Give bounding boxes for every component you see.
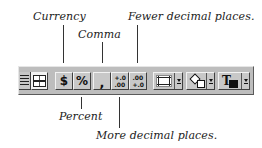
- callout-fewer-decimal-line: [137, 25, 138, 63]
- dropdown-arrow-underline: [244, 83, 248, 84]
- justify-button[interactable]: [19, 72, 31, 90]
- decrease-decimal-icon: .00 +.0: [133, 74, 144, 88]
- callout-currency-label: Currency: [33, 10, 86, 23]
- chevron-down-icon[interactable]: [177, 79, 181, 82]
- chevron-down-icon[interactable]: [244, 79, 248, 82]
- callout-comma-line: [102, 42, 103, 63]
- formatting-toolbar: $ % , +.0 .00 .00 +.0: [18, 66, 254, 95]
- decrease-decimal-button[interactable]: .00 +.0: [129, 72, 147, 90]
- percent-icon: %: [76, 75, 88, 87]
- dropdown-arrow-underline: [177, 83, 181, 84]
- fill-color-dropdown[interactable]: [186, 72, 215, 90]
- dropdown-arrow-underline: [209, 83, 213, 84]
- dollar-icon: $: [60, 75, 68, 87]
- increase-decimal-icon: +.0 .00: [115, 74, 126, 88]
- dropdown-divider: [206, 73, 207, 89]
- increase-decimal-button[interactable]: +.0 .00: [111, 72, 129, 90]
- font-color-icon: T: [222, 75, 239, 88]
- percent-style-button[interactable]: %: [73, 72, 91, 90]
- callout-percent-label: Percent: [59, 110, 103, 123]
- callout-more-decimal-line: [119, 97, 120, 128]
- borders-dropdown[interactable]: [153, 72, 183, 90]
- center-across-columns-button[interactable]: [31, 72, 48, 90]
- justify-lines-icon: [20, 75, 29, 86]
- chevron-down-icon[interactable]: [209, 79, 213, 82]
- paint-bucket-icon: [190, 75, 205, 88]
- callout-percent-line: [81, 97, 82, 109]
- callout-currency-line: [63, 25, 64, 63]
- dropdown-divider: [174, 73, 175, 89]
- callout-fewer-decimal-label: Fewer decimal places.: [128, 10, 254, 23]
- currency-style-button[interactable]: $: [55, 72, 73, 90]
- comma-style-button[interactable]: ,: [93, 72, 111, 90]
- comma-icon: ,: [100, 76, 105, 89]
- callout-more-decimal-label: More decimal places.: [96, 129, 217, 142]
- font-color-dropdown[interactable]: T: [218, 72, 250, 90]
- center-across-columns-icon: [33, 75, 46, 87]
- borders-icon: [156, 75, 172, 87]
- callout-comma-label: Comma: [78, 28, 121, 41]
- dropdown-divider: [241, 73, 242, 89]
